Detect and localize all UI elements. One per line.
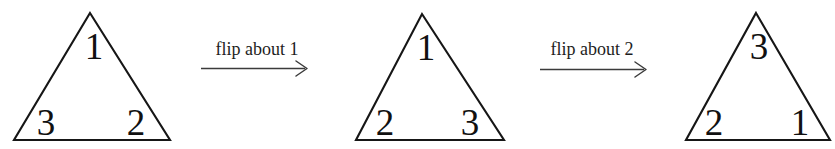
triangle-1-bottom-left-label: 3 (37, 102, 56, 143)
arrow-1-label: flip about 1 (216, 39, 299, 59)
triangle-flip-diagram: 1 3 2 flip about 1 1 2 3 flip about 2 3 (0, 0, 835, 149)
triangle-1-group: 1 3 2 (14, 13, 170, 143)
diagram-canvas: 1 3 2 flip about 1 1 2 3 flip about 2 3 (0, 0, 835, 149)
triangle-3-group: 3 2 1 (686, 13, 830, 143)
triangle-3-apex-label: 3 (750, 26, 769, 67)
triangle-1-apex-label: 1 (85, 26, 104, 67)
arrow-1-group: flip about 1 (201, 39, 307, 76)
triangle-2-apex-label: 1 (417, 27, 436, 68)
arrow-2-group: flip about 2 (540, 39, 646, 77)
triangle-1-bottom-right-label: 2 (127, 102, 146, 143)
triangle-3-bottom-left-label: 2 (705, 102, 724, 143)
arrow-2-label: flip about 2 (551, 39, 634, 59)
triangle-2-bottom-right-label: 3 (461, 102, 480, 143)
triangle-2-group: 1 2 3 (356, 14, 504, 143)
triangle-3-bottom-right-label: 1 (791, 102, 810, 143)
triangle-2-bottom-left-label: 2 (376, 102, 395, 143)
